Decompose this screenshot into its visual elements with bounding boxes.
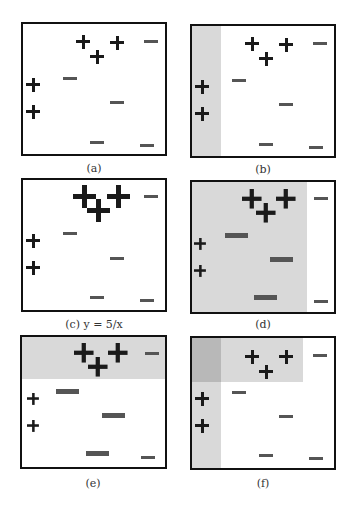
caption-c: (c) y = 5/x [21, 318, 167, 331]
caption-f: (f) [190, 477, 336, 490]
shaded-overlap-region [192, 338, 221, 382]
minus-marker [141, 456, 155, 459]
minus-marker [313, 354, 327, 357]
caption-a: (a) [21, 162, 167, 175]
caption-e: (e) [20, 477, 166, 490]
minus-marker [140, 144, 154, 147]
minus-marker [314, 300, 328, 303]
minus-marker [313, 42, 327, 45]
minus-marker [140, 299, 154, 302]
panel-b [190, 24, 336, 158]
shaded-region [22, 337, 167, 379]
minus-marker [314, 197, 328, 200]
minus-marker [63, 77, 77, 80]
minus-marker [90, 296, 104, 299]
minus-marker [110, 101, 124, 104]
minus-marker [110, 257, 124, 260]
minus-marker [145, 352, 159, 355]
panel-c [21, 178, 167, 312]
minus-marker [259, 454, 273, 457]
minus-marker-large [102, 413, 125, 418]
minus-marker [309, 457, 323, 460]
minus-marker [90, 141, 104, 144]
caption-b: (b) [190, 163, 336, 176]
minus-marker [144, 195, 158, 198]
minus-marker-large [86, 451, 109, 456]
minus-marker-large [225, 233, 248, 238]
minus-marker-large [56, 389, 79, 394]
minus-marker [309, 146, 323, 149]
minus-marker [63, 232, 77, 235]
minus-marker [144, 40, 158, 43]
panel-f [190, 336, 336, 470]
minus-marker [232, 79, 246, 82]
minus-marker [279, 415, 293, 418]
minus-marker [232, 391, 246, 394]
panel-d [190, 180, 336, 314]
minus-marker [259, 143, 273, 146]
panel-a [21, 22, 167, 156]
minus-marker-large [270, 257, 293, 262]
shaded-region [192, 26, 221, 158]
minus-marker-large [254, 295, 277, 300]
caption-d: (d) [190, 318, 336, 331]
panel-e [20, 335, 167, 469]
minus-marker [279, 103, 293, 106]
